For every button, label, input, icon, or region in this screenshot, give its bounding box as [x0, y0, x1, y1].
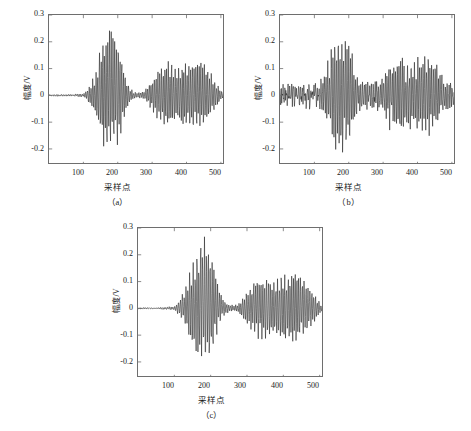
y-tick-b-4: -0.1 [244, 117, 275, 126]
x-tick-a-2: 300 [136, 168, 156, 177]
y-tick-c-3: 0 [105, 303, 133, 312]
y-tick-c-0: 0.3 [105, 222, 133, 231]
y-tick-c-4: -0.1 [102, 330, 133, 339]
x-tick-c-3: 400 [267, 381, 287, 390]
waveform-c [138, 228, 323, 377]
y-tick-a-2: 0.1 [16, 63, 44, 72]
waveform-a [49, 15, 224, 164]
x-axis-label-a: 采样点 [0, 180, 235, 192]
y-tick-b-2: 0.1 [247, 63, 275, 72]
panel-c: 幅度/V 0.3 0.2 0.1 0 -0.1 -0.2 100 200 300… [89, 213, 334, 431]
waveform-b [280, 15, 455, 164]
y-tick-b-5: -0.2 [244, 144, 275, 153]
x-tick-b-1: 200 [333, 168, 353, 177]
x-tick-a-3: 400 [171, 168, 191, 177]
y-tick-c-1: 0.2 [105, 249, 133, 258]
y-tick-a-3: 0 [16, 90, 44, 99]
y-tick-a-0: 0.3 [16, 9, 44, 18]
x-tick-a-1: 200 [102, 168, 122, 177]
x-tick-b-2: 300 [367, 168, 387, 177]
y-tick-b-3: 0 [247, 90, 275, 99]
x-tick-c-0: 100 [158, 381, 178, 390]
caption-a: （a） [0, 195, 235, 207]
caption-b: （b） [231, 195, 466, 207]
plot-area-a [48, 14, 224, 164]
x-tick-b-0: 100 [299, 168, 319, 177]
y-tick-c-2: 0.1 [105, 276, 133, 285]
x-tick-b-3: 400 [402, 168, 422, 177]
x-axis-label-c: 采样点 [89, 393, 334, 405]
panel-b: 幅度/V 0.3 0.2 0.1 0 -0.1 -0.2 100 200 300… [231, 0, 471, 215]
x-tick-a-0: 100 [68, 168, 88, 177]
y-tick-b-0: 0.3 [247, 9, 275, 18]
x-tick-c-4: 500 [303, 381, 323, 390]
x-axis-label-b: 采样点 [231, 180, 466, 192]
y-tick-a-5: -0.2 [13, 144, 44, 153]
y-tick-a-1: 0.2 [16, 36, 44, 45]
plot-area-b [279, 14, 455, 164]
x-tick-b-4: 500 [436, 168, 456, 177]
panel-a: 幅度/V 0.3 0.2 0.1 0 -0.1 -0.2 100 200 300… [0, 0, 235, 215]
y-tick-c-5: -0.2 [102, 357, 133, 366]
caption-c: （c） [89, 408, 334, 420]
x-tick-a-4: 500 [205, 168, 225, 177]
y-tick-a-4: -0.1 [13, 117, 44, 126]
plot-area-c [137, 227, 323, 377]
x-tick-c-1: 200 [194, 381, 214, 390]
x-tick-c-2: 300 [230, 381, 250, 390]
y-tick-b-1: 0.2 [247, 36, 275, 45]
signal-figure: 幅度/V 0.3 0.2 0.1 0 -0.1 -0.2 100 200 300… [0, 0, 471, 431]
